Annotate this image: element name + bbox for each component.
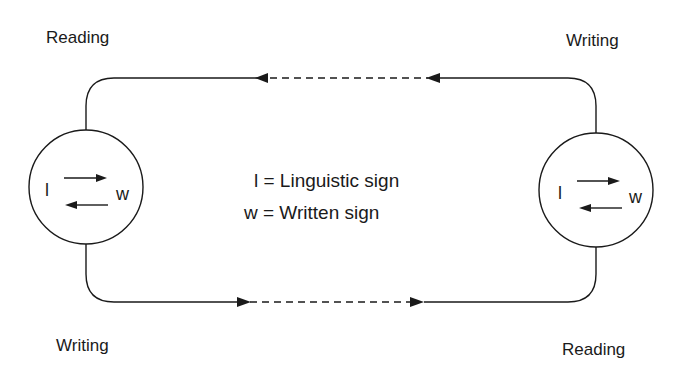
bottom-connector-right: [424, 247, 596, 302]
top-connector-left: [86, 78, 258, 130]
right-node-arrowhead-left: [579, 204, 591, 212]
right-node-symbol-w: w: [629, 188, 642, 206]
left-node-symbol-w: w: [116, 185, 129, 203]
label-top-left: Reading: [46, 29, 109, 46]
right-node-arrowhead-right: [608, 177, 620, 185]
bottom-connector-left: [86, 244, 238, 302]
right-node-symbol-l: l: [558, 184, 562, 202]
bottom-arrowhead-right: [410, 297, 424, 307]
legend-written-sign: w = Written sign: [244, 203, 379, 222]
left-node-symbol-l: l: [45, 181, 49, 199]
label-bottom-right: Reading: [562, 341, 625, 358]
left-node-arrowhead-left: [65, 201, 77, 209]
top-connector-right: [440, 78, 596, 133]
left-node-arrowhead-right: [96, 174, 107, 182]
bottom-arrowhead-left: [237, 297, 251, 307]
label-top-right: Writing: [566, 32, 619, 49]
top-arrowhead-left: [255, 73, 268, 83]
top-arrowhead-right: [426, 73, 440, 83]
label-bottom-left: Writing: [56, 337, 109, 354]
legend-linguistic-sign: l = Linguistic sign: [254, 171, 399, 190]
